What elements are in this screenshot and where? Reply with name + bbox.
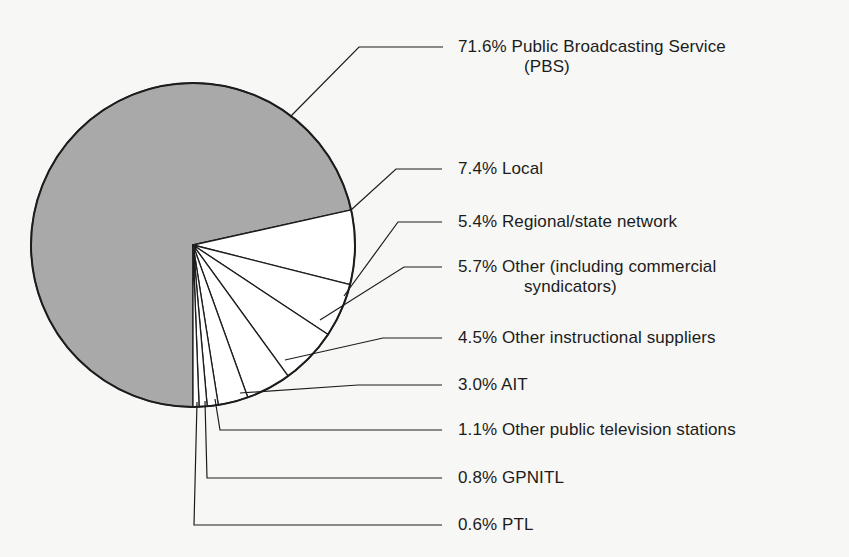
slice-label-text: 7.4% Local (458, 159, 543, 178)
slice-label: 5.4% Regional/state network (458, 212, 677, 232)
slice-label-continuation: (PBS) (458, 57, 726, 77)
slice-label: 71.6% Public Broadcasting Service(PBS) (458, 37, 726, 77)
slice-label: 0.8% GPNITL (458, 468, 564, 488)
slice-label-text: 0.8% GPNITL (458, 468, 564, 487)
slice-label-text: 1.1% Other public television stations (458, 420, 736, 439)
slice-label: 0.6% PTL (458, 515, 533, 535)
slice-label-text: 5.7% Other (including commercial (458, 257, 716, 276)
slice-label-continuation: syndicators) (458, 277, 716, 297)
leader-line (344, 222, 442, 296)
slice-label-text: 71.6% Public Broadcasting Service (458, 37, 726, 56)
slice-label-text: 3.0% AIT (458, 375, 528, 394)
slice-label-text: 5.4% Regional/state network (458, 212, 677, 231)
slice-label: 5.7% Other (including commercialsyndicat… (458, 257, 716, 297)
slice-label-text: 4.5% Other instructional suppliers (458, 328, 716, 347)
leader-line (290, 47, 443, 117)
slice-label-text: 0.6% PTL (458, 515, 533, 534)
pie-chart (0, 0, 849, 557)
leader-line (215, 399, 442, 430)
slice-label: 1.1% Other public television stations (458, 420, 736, 440)
leader-line (205, 401, 442, 478)
slice-label: 4.5% Other instructional suppliers (458, 328, 716, 348)
leader-line (351, 169, 442, 210)
slice-label: 3.0% AIT (458, 375, 528, 395)
leader-line (194, 402, 442, 525)
slice-label: 7.4% Local (458, 159, 543, 179)
